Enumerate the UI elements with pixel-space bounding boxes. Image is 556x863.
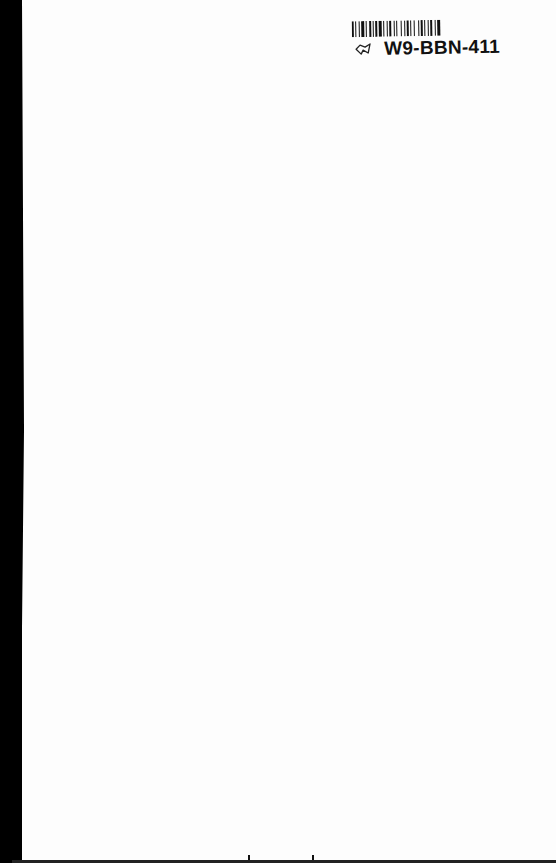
- barcode-bar: [435, 20, 436, 36]
- barcode-bar: [418, 20, 419, 36]
- barcode-bar: [414, 20, 415, 36]
- barcode-bar: [359, 21, 360, 37]
- barcode-bar: [387, 21, 388, 37]
- barcode-bar: [428, 20, 429, 36]
- barcode-bar: [424, 20, 425, 36]
- barcode-bar: [373, 21, 374, 37]
- hand-drawn-mark-icon: [354, 42, 372, 56]
- barcode-bar: [355, 21, 356, 37]
- barcode-bar: [407, 20, 409, 36]
- barcode-bar: [361, 21, 364, 37]
- barcode-bar: [352, 21, 354, 37]
- barcode-bar: [401, 20, 402, 36]
- scan-artifact: [248, 855, 250, 860]
- barcode-bar: [383, 21, 384, 37]
- label-row: W9-BBN-411: [352, 36, 500, 61]
- barcode-bar: [437, 20, 440, 36]
- barcode: [352, 19, 502, 38]
- scanned-page: W9-BBN-411: [22, 0, 556, 860]
- barcode-bar: [369, 21, 371, 37]
- barcode-bar: [421, 20, 423, 36]
- barcode-label: W9-BBN-411: [352, 19, 503, 66]
- barcode-bar: [394, 21, 395, 37]
- barcode-bar: [375, 21, 377, 37]
- barcode-bar: [396, 21, 397, 37]
- barcode-bar: [410, 20, 411, 36]
- barcode-bar: [430, 20, 432, 36]
- scan-artifact: [312, 855, 314, 860]
- barcode-bar: [389, 21, 391, 37]
- barcode-bar: [366, 21, 367, 37]
- barcode-code: W9-BBN-411: [384, 36, 500, 60]
- barcode-bar: [404, 20, 405, 36]
- barcode-bar: [379, 21, 382, 37]
